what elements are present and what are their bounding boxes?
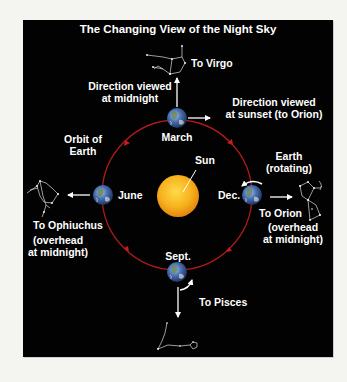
- label-orbit-of-earth: Orbit of Earth: [58, 133, 108, 157]
- constellation-ophiuchus-icon: [27, 180, 59, 217]
- constellation-virgo-icon: [146, 45, 186, 75]
- diagram-title: The Changing View of the Night Sky: [23, 23, 333, 35]
- label-march: March: [157, 131, 197, 143]
- label-sun: Sun: [195, 154, 215, 166]
- label-to-ophiuchus: To Ophiuchus: [33, 219, 103, 231]
- earth-icon-dec: [242, 185, 262, 205]
- earth-icon-march: [167, 108, 187, 128]
- earth-icon-sept: [167, 262, 187, 282]
- label-june: June: [118, 189, 143, 201]
- constellation-pisces-icon: [157, 322, 197, 350]
- label-sept: Sept.: [160, 250, 196, 262]
- rotation-arrow-icon-sept: [180, 280, 192, 290]
- label-dec: Dec.: [218, 189, 240, 201]
- label-ophiuchus-note: (overhead at midnight): [26, 234, 90, 258]
- label-to-orion: To Orion: [259, 207, 302, 219]
- label-to-pisces: To Pisces: [199, 296, 247, 308]
- sun-icon: [157, 175, 199, 217]
- label-to-virgo: To Virgo: [191, 57, 233, 69]
- label-direction-midnight: Direction viewed at midnight: [82, 80, 178, 104]
- earth-icon-june: [93, 185, 113, 205]
- label-direction-sunset: Direction viewed at sunset (to Orion): [214, 96, 334, 120]
- label-earth-rotating: Earth (rotating): [258, 150, 320, 174]
- label-orion-note: (overhead at midnight): [258, 221, 328, 245]
- orbit-diagram: [0, 0, 347, 382]
- constellation-orion-icon: [299, 181, 322, 221]
